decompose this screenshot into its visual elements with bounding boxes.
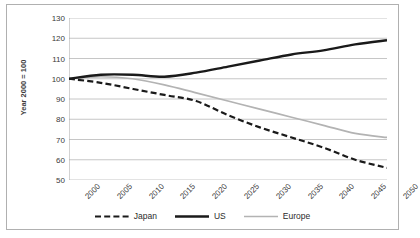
x-axis-tick-label: 2040: [338, 182, 357, 201]
y-axis-tick-label: 50: [39, 176, 65, 185]
plot-area: [69, 18, 387, 180]
y-axis-tick-label: 80: [39, 115, 65, 124]
y-axis-tick-label: 60: [39, 155, 65, 164]
x-axis-tick-label: 2000: [83, 182, 102, 201]
legend-label: Japan: [134, 211, 157, 221]
chart-legend: JapanUSEurope: [7, 211, 398, 221]
y-axis-tick-label: 130: [39, 14, 65, 23]
legend-item-us[interactable]: US: [175, 211, 226, 221]
y-axis-tick-label: 110: [39, 54, 65, 63]
x-axis-tick-label: 2035: [306, 182, 325, 201]
series-line-us: [69, 40, 387, 78]
y-axis-tick-label: 90: [39, 95, 65, 104]
legend-label: US: [214, 211, 226, 221]
chart-container: Year 2000 = 100 1301201101009080706050 2…: [6, 4, 399, 230]
x-axis-tick-label: 2010: [147, 182, 166, 201]
legend-label: Europe: [283, 211, 310, 221]
x-axis-tick-label: 2015: [179, 182, 198, 201]
chart-svg: [69, 18, 387, 180]
y-axis-tick-label: 70: [39, 135, 65, 144]
x-axis-tick-label: 2025: [242, 182, 261, 201]
y-axis-tick-labels: 1301201101009080706050: [37, 18, 65, 180]
legend-item-europe[interactable]: Europe: [244, 211, 310, 221]
legend-swatch-europe: [244, 212, 278, 221]
x-axis-tick-label: 2045: [369, 182, 388, 201]
y-axis-title: Year 2000 = 100: [19, 28, 28, 148]
series-line-japan: [69, 79, 387, 168]
x-axis-tick-label: 2030: [274, 182, 293, 201]
x-axis-tick-label: 2005: [115, 182, 134, 201]
x-axis-tick-label: 2020: [210, 182, 229, 201]
legend-swatch-japan: [95, 212, 129, 221]
legend-swatch-us: [175, 212, 209, 221]
y-axis-tick-label: 100: [39, 74, 65, 83]
y-axis-tick-label: 120: [39, 34, 65, 43]
x-axis-tick-label: 2050: [401, 182, 420, 201]
legend-item-japan[interactable]: Japan: [95, 211, 157, 221]
